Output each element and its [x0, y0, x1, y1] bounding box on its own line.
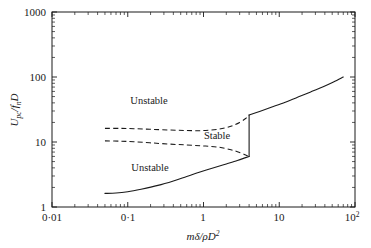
x-tick-label-0-1: 0·1 [121, 211, 136, 223]
figure-container: 1000 100 10 1 0·01 0·1 1 10 102 mδ/ρD2 U… [0, 0, 371, 248]
region-label-stable: Stable [204, 130, 231, 141]
y-tick-label-10: 10 [35, 136, 47, 148]
region-label-unstable-upper: Unstable [130, 95, 168, 106]
region-label-unstable-lower: Unstable [131, 162, 169, 173]
x-tick-label-0-01: 0·01 [42, 211, 62, 223]
x-axis-title: mδ/ρD2 [186, 229, 219, 242]
x-tick-label-10: 10 [274, 211, 286, 223]
x-tick-label-1: 1 [200, 211, 206, 223]
y-tick-label-100: 100 [30, 71, 47, 83]
y-tick-label-1000: 1000 [24, 6, 47, 18]
stability-chart: 1000 100 10 1 0·01 0·1 1 10 102 mδ/ρD2 U… [0, 0, 371, 248]
